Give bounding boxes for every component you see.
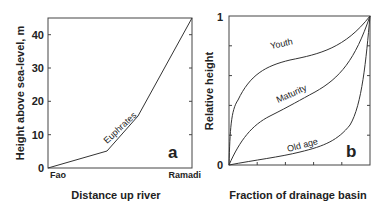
youth-label: Youth — [269, 36, 293, 51]
panel-a-xtick-ramadi: Ramadi — [168, 170, 201, 180]
panel-b: 0 1 Relative height Fraction of drainage… — [203, 11, 370, 201]
panel-a-xlabel: Distance up river — [71, 189, 161, 201]
panel-a-ytick-40: 40 — [32, 29, 44, 41]
panel-a-ytick-20: 20 — [32, 95, 44, 107]
panel-a-xtick-fao: Fao — [50, 170, 67, 180]
panel-a: 0 10 20 30 40 Height above sea-level, m … — [14, 18, 201, 201]
euphrates-label: Euphrates — [102, 110, 139, 146]
panel-a-ytick-0: 0 — [38, 162, 44, 174]
panel-b-ytick-1: 1 — [217, 11, 223, 23]
panel-b-letter: b — [346, 142, 356, 161]
panel-b-ytick-0: 0 — [217, 159, 223, 171]
panel-a-letter: a — [168, 143, 178, 162]
figure: 0 10 20 30 40 Height above sea-level, m … — [0, 0, 381, 210]
panel-a-ytick-10: 10 — [32, 129, 44, 141]
maturity-label: Maturity — [275, 82, 309, 104]
panel-b-xlabel: Fraction of drainage basin — [229, 189, 367, 201]
panel-a-ylabel: Height above sea-level, m — [14, 26, 26, 161]
panel-a-ytick-30: 30 — [32, 62, 44, 74]
panel-b-ylabel: Relative height — [203, 52, 215, 131]
